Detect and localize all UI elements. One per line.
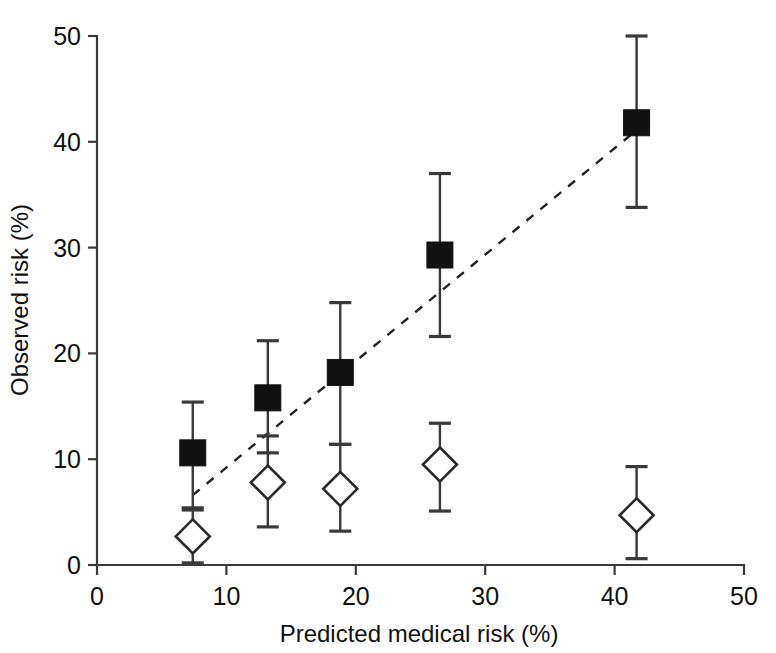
x-axis-tick-label: 40 (601, 582, 629, 610)
x-axis-tick-label: 0 (90, 582, 104, 610)
y-axis-tick-label: 30 (53, 234, 81, 262)
x-axis-tick-label: 30 (471, 582, 499, 610)
filled-square-marker (255, 385, 281, 411)
x-axis-tick-label: 20 (342, 582, 370, 610)
open-diamond-marker (423, 447, 457, 481)
filled-square-marker (624, 110, 650, 136)
open-diamond-marker (176, 519, 210, 553)
y-axis-tick-label: 0 (67, 551, 81, 579)
chart-figure: 0102030405001020304050 Predicted medical… (0, 0, 776, 653)
y-axis-tick-label: 10 (53, 445, 81, 473)
x-axis-title: Predicted medical risk (%) (280, 620, 559, 647)
y-axis-title: Observed risk (%) (6, 204, 33, 396)
filled-square-marker (327, 359, 353, 385)
y-axis-tick-label: 40 (53, 128, 81, 156)
tick-labels-group: 0102030405001020304050 (53, 22, 758, 610)
open-diamond-marker (323, 472, 357, 506)
x-axis-tick-label: 10 (212, 582, 240, 610)
filled-square-marker (180, 440, 206, 466)
identity-reference-line (193, 130, 637, 495)
filled-square-marker (427, 242, 453, 268)
y-axis-tick-label: 50 (53, 22, 81, 50)
y-axis-tick-label: 20 (53, 339, 81, 367)
open-diamond-marker (251, 465, 285, 499)
data-markers-group (176, 110, 654, 554)
x-axis-tick-label: 50 (730, 582, 758, 610)
scatter-plot-canvas: 0102030405001020304050 Predicted medical… (0, 0, 776, 653)
open-diamond-marker (620, 498, 654, 532)
identity-reference-line-group (193, 130, 637, 495)
